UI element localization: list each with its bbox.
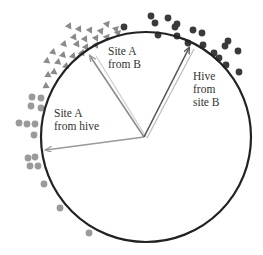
circular-diagram <box>0 0 263 255</box>
triangle-marker <box>97 28 104 35</box>
triangle-marker <box>92 35 99 42</box>
grey-dot-marker <box>24 121 31 128</box>
label-line: Site A <box>54 107 99 120</box>
triangle-marker <box>86 27 92 34</box>
label-line: Hive <box>193 70 220 83</box>
grey-dot-marker <box>86 230 93 237</box>
triangle-marker <box>43 82 50 89</box>
dark-dot-marker <box>199 30 206 37</box>
dark-dot-marker <box>121 24 128 31</box>
triangle-marker <box>43 57 50 64</box>
grey-dot-marker <box>16 120 23 127</box>
dark-dot-marker <box>190 27 197 34</box>
grey-dot-marker <box>41 181 48 188</box>
grey-dot-marker <box>32 154 39 161</box>
grey-dot-marker <box>38 95 45 102</box>
label-site-a-from-hive: Site A from hive <box>54 107 99 133</box>
arrow-hive-from-site-b <box>144 48 189 137</box>
dark-dot-marker <box>152 20 159 27</box>
grey-dot-marker <box>25 155 32 162</box>
grey-dot-marker <box>28 103 35 110</box>
arrow-site-a-from-hive <box>46 137 144 150</box>
dark-dot-marker <box>148 13 155 20</box>
label-line: from B <box>108 58 141 71</box>
arrow-hive-from-site-b-shadow <box>147 49 194 138</box>
triangle-marker <box>81 35 87 42</box>
triangle-marker <box>59 51 66 58</box>
triangle-marker <box>49 48 56 55</box>
triangle-marker <box>75 25 81 32</box>
dark-dot-marker <box>236 69 243 76</box>
grey-dot-marker <box>57 205 64 212</box>
label-site-a-from-b: Site A from B <box>108 45 141 71</box>
dark-dot-marker <box>225 38 232 45</box>
triangle-marker <box>50 68 57 75</box>
grey-dot-marker <box>31 132 38 139</box>
grey-dot-marker <box>32 121 39 128</box>
triangle-marker <box>60 40 67 47</box>
dark-dot-marker <box>172 24 179 31</box>
label-line: Site A <box>108 45 141 58</box>
label-line: site B <box>193 96 220 109</box>
label-line: from hive <box>54 120 99 133</box>
label-line: from <box>193 83 220 96</box>
dark-dot-marker <box>235 48 242 55</box>
grey-dot-marker <box>35 163 42 170</box>
triangle-marker <box>54 58 61 65</box>
grey-dot-marker <box>29 94 36 101</box>
grey-dot-marker <box>27 163 34 170</box>
triangle-marker <box>103 21 110 28</box>
triangle-marker <box>69 52 76 59</box>
triangle-marker <box>65 22 72 29</box>
dark-dot-marker <box>165 15 172 22</box>
label-hive-from-site-b: Hive from site B <box>193 70 220 109</box>
triangle-marker <box>73 40 80 47</box>
triangle-marker <box>70 33 77 40</box>
triangle-marker <box>44 71 51 77</box>
